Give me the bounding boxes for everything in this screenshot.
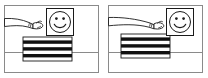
panel-left: [0, 0, 104, 78]
smiley-face-icon: [170, 12, 191, 33]
smiley-eye-left-icon: [55, 17, 58, 20]
smiley-face-icon: [50, 12, 71, 33]
stripe-dark-1: [121, 37, 170, 40]
striped-block: [23, 37, 72, 61]
figure-root: [0, 0, 208, 78]
stripe-dark-2: [121, 44, 170, 47]
smiley-eye-right-icon: [62, 17, 65, 20]
smiley-eye-left-icon: [175, 17, 178, 20]
stripe-dark-2: [23, 47, 72, 50]
stripe-dark-3: [23, 54, 72, 57]
smiley-eye-right-icon: [182, 17, 185, 20]
stripe-dark-1: [23, 40, 72, 43]
stripe-dark-3: [121, 51, 170, 54]
panel-right-canvas: [104, 0, 208, 78]
panel-left-canvas: [0, 0, 104, 78]
striped-block: [121, 34, 170, 58]
panel-right: [104, 0, 208, 78]
